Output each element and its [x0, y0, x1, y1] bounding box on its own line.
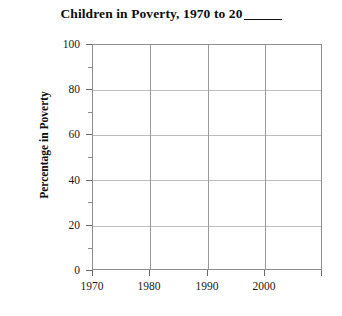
x-tick-label-1970: 1970	[62, 281, 122, 293]
y-tick-label-80: 80	[20, 84, 80, 96]
y-tick-100	[86, 44, 92, 45]
chart-screenshot: Children in Poverty, 1970 to 20 Percenta…	[0, 0, 342, 316]
y-tick-80	[86, 89, 92, 90]
x-tick-1980	[149, 270, 150, 276]
x-tick-label-2000: 2000	[234, 281, 294, 293]
y-tick-label-0: 0	[20, 265, 80, 277]
y-tick-40	[86, 180, 92, 181]
y-tick-minor-90	[88, 67, 92, 68]
gridline-horizontal-20	[93, 226, 321, 227]
y-tick-label-60: 60	[20, 129, 80, 141]
chart-title: Children in Poverty, 1970 to 20	[0, 6, 342, 22]
x-tick-label-1980: 1980	[119, 281, 179, 293]
gridline-vertical-2000	[265, 45, 266, 269]
gridline-horizontal-40	[93, 180, 321, 181]
y-axis-title: Percentage in Poverty	[38, 45, 50, 245]
y-tick-minor-30	[88, 202, 92, 203]
x-tick-label-1990: 1990	[177, 281, 237, 293]
x-tick-2010	[321, 270, 322, 276]
x-tick-2000	[264, 270, 265, 276]
gridline-vertical-1990	[208, 45, 209, 269]
gridline-vertical-1980	[150, 45, 151, 269]
y-tick-label-20: 20	[20, 220, 80, 232]
gridline-horizontal-80	[93, 90, 321, 91]
gridline-horizontal-60	[93, 135, 321, 136]
y-tick-20	[86, 225, 92, 226]
y-tick-minor-50	[88, 157, 92, 158]
y-tick-minor-70	[88, 112, 92, 113]
x-tick-1970	[92, 270, 93, 276]
x-tick-1990	[207, 270, 208, 276]
y-tick-label-100: 100	[20, 39, 80, 51]
chart-title-blank	[244, 19, 282, 20]
y-tick-60	[86, 134, 92, 135]
y-tick-minor-10	[88, 248, 92, 249]
plot-area	[92, 44, 322, 270]
y-tick-label-40: 40	[20, 175, 80, 187]
chart-title-text: Children in Poverty, 1970 to 20	[60, 6, 242, 21]
